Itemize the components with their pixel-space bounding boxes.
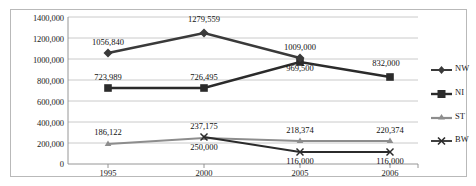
data-label-ST-2006: 220,374 bbox=[359, 125, 421, 135]
data-label-NW-2005: 1009,000 bbox=[269, 42, 331, 52]
x-tick-label: 2000 bbox=[174, 168, 234, 178]
legend-item-NW[interactable]: NW bbox=[455, 63, 469, 79]
legend-item-ST[interactable]: ST bbox=[455, 111, 465, 127]
y-tick-label: 0 bbox=[10, 159, 64, 169]
data-label-BW-2006: 116,000 bbox=[359, 156, 421, 166]
legend-symbol-BW bbox=[431, 138, 452, 145]
legend-symbol-NI bbox=[431, 90, 452, 98]
y-tick-label: 400,000 bbox=[10, 118, 64, 128]
data-label-ST-2000: 237,175 bbox=[173, 121, 235, 131]
data-label-NW-2000: 1279,559 bbox=[173, 14, 235, 24]
legend-symbol-NW bbox=[431, 66, 452, 74]
legend-label-BW: BW bbox=[455, 134, 469, 144]
data-label-ST-1995: 186,122 bbox=[77, 127, 139, 137]
legend-item-NI[interactable]: NI bbox=[455, 87, 464, 103]
y-tick-label: 800,000 bbox=[10, 76, 64, 86]
y-tick-label: 200,000 bbox=[10, 139, 64, 149]
legend-label-ST: ST bbox=[455, 111, 465, 121]
legend-label-NI: NI bbox=[455, 87, 464, 97]
data-label-NI-1995: 723,989 bbox=[77, 72, 139, 82]
series-line-NI bbox=[104, 58, 394, 92]
y-tick-label: 600,000 bbox=[10, 97, 64, 107]
data-label-BW-2000: 250,000 bbox=[173, 142, 235, 152]
data-label-NI-2005: 969,500 bbox=[269, 63, 331, 73]
y-tick-label: 1400,000 bbox=[10, 13, 64, 23]
data-label-NW-1995: 1056,840 bbox=[77, 37, 139, 47]
x-tick-label: 1995 bbox=[78, 168, 138, 178]
legend-item-BW[interactable]: BW bbox=[455, 134, 469, 150]
y-tick-label: 1000,000 bbox=[10, 55, 64, 65]
legend-symbol-ST bbox=[431, 114, 452, 120]
legend-label-NW: NW bbox=[455, 63, 469, 73]
x-tick-label: 2005 bbox=[270, 168, 330, 178]
y-tick-label: 1200,000 bbox=[10, 34, 64, 44]
data-label-ST-2005: 218,374 bbox=[269, 125, 331, 135]
x-tick-label: 2006 bbox=[360, 168, 420, 178]
data-label-NI-2006: 832,000 bbox=[355, 58, 417, 68]
data-label-NI-2000: 726,495 bbox=[173, 72, 235, 82]
data-label-BW-2005: 116,000 bbox=[269, 156, 331, 166]
